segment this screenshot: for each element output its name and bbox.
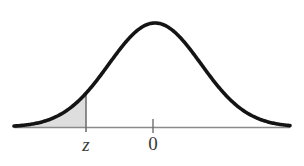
axis-tick-label-zero: 0 [133, 134, 173, 153]
axis-tick-label-z: z [66, 135, 106, 154]
normal-distribution-figure: z 0 [0, 0, 304, 166]
left-tail-shaded-area [14, 93, 86, 127]
normal-density-curve [14, 23, 290, 126]
